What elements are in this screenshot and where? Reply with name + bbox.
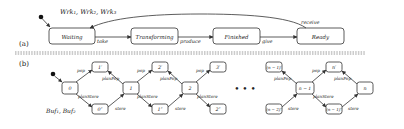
svg-text:pop: pop: [196, 68, 204, 73]
transition-label-take: take: [97, 38, 108, 44]
svg-text:pop: pop: [312, 68, 320, 73]
state-2: 2: [182, 82, 198, 94]
transition-receive: [90, 14, 306, 28]
state-1: 1: [123, 82, 139, 94]
svg-text:(n − 1)′: (n − 1)′: [266, 65, 281, 70]
svg-text:1″: 1″: [158, 107, 163, 112]
initial-transition-a: [43, 19, 51, 27]
state-n: n: [357, 82, 373, 94]
state-ready: Ready: [297, 28, 344, 44]
buffer-group-label: Buf₁, Buf₂: [45, 107, 76, 115]
svg-text:planPop: planPop: [160, 76, 177, 81]
svg-text:store: store: [288, 106, 299, 111]
svg-text:pop: pop: [137, 68, 145, 73]
svg-text:Waiting: Waiting: [61, 34, 83, 41]
svg-text:Ready: Ready: [311, 34, 330, 41]
svg-text:n − 1: n − 1: [299, 86, 311, 91]
svg-text:pop: pop: [77, 68, 85, 73]
svg-text:store: store: [115, 106, 126, 111]
svg-text:planPop: planPop: [334, 76, 351, 81]
svg-text:0: 0: [68, 86, 71, 91]
svg-text:2: 2: [187, 86, 191, 91]
svg-text:2′: 2′: [157, 65, 163, 70]
section-label-b: (b): [19, 60, 29, 68]
state-machine-diagram: (a) Wrk₁, Wrk₂, Wrk₃ Waiting Transformin…: [0, 0, 404, 129]
ellipsis: • • •: [234, 84, 256, 94]
state-0: 0: [62, 82, 78, 94]
svg-text:planStore: planStore: [78, 94, 99, 99]
state-n-prime: n′: [326, 62, 342, 72]
state-n-minus-1-double-prime: (n − 1)″: [326, 104, 342, 114]
worker-group-label: Wrk₁, Wrk₂, Wrk₃: [60, 8, 117, 16]
state-2-double-prime: 2″: [210, 104, 226, 114]
svg-text:2″: 2″: [215, 107, 221, 112]
state-waiting: Waiting: [49, 28, 95, 44]
section-label-a: (a): [19, 40, 29, 48]
transition-label-produce: produce: [180, 38, 201, 45]
svg-text:Finished: Finished: [223, 34, 248, 40]
state-n-minus-2-double-prime: (n − 2)″: [266, 104, 282, 114]
svg-text:store: store: [175, 106, 186, 111]
svg-text:0″: 0″: [98, 107, 103, 112]
svg-text:store: store: [348, 106, 359, 111]
svg-text:planStore: planStore: [137, 94, 158, 99]
state-2-prime: 2′: [152, 62, 168, 72]
transition-label-give: give: [262, 38, 273, 45]
svg-text:planStore: planStore: [197, 94, 218, 99]
svg-text:planPop: planPop: [274, 76, 291, 81]
svg-text:(n − 1)″: (n − 1)″: [326, 107, 342, 112]
state-n-minus-1: n − 1: [296, 82, 314, 94]
state-n-minus-1-prime: (n − 1)′: [266, 62, 282, 72]
state-1-prime: 1′: [92, 62, 108, 72]
initial-state-dot-b: [51, 72, 56, 77]
svg-text:Transforming: Transforming: [136, 34, 174, 41]
svg-text:planStore: planStore: [313, 94, 334, 99]
state-3-prime: 3′: [210, 62, 226, 72]
svg-text:(n − 2)″: (n − 2)″: [266, 107, 282, 112]
svg-text:planPop: planPop: [102, 76, 119, 81]
state-0-double-prime: 0″: [92, 104, 108, 114]
svg-text:n: n: [363, 86, 366, 91]
transition-label-receive: receive: [301, 19, 320, 25]
svg-text:1: 1: [129, 86, 132, 91]
state-1-double-prime: 1″: [152, 104, 168, 114]
state-transforming: Transforming: [131, 28, 178, 44]
state-finished: Finished: [213, 28, 260, 44]
initial-state-dot-a: [39, 15, 44, 20]
